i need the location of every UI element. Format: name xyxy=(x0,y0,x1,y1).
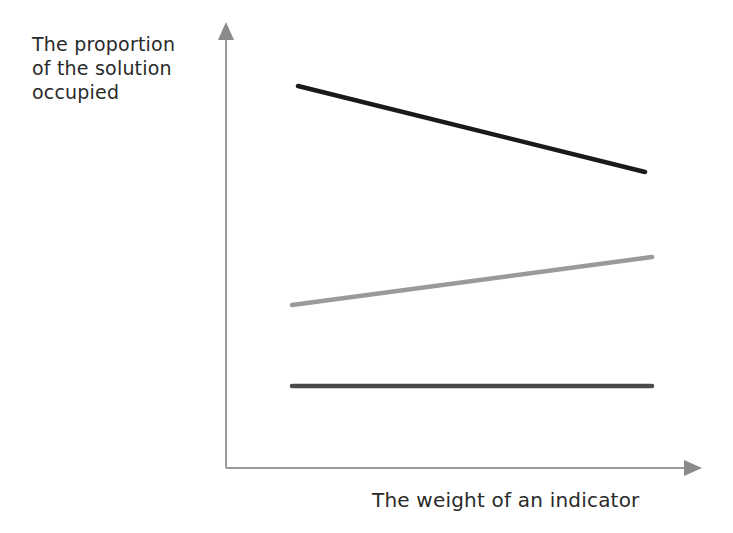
y-axis-label-line-2: of the solution xyxy=(32,56,222,80)
y-axis-label-line-3: occupied xyxy=(32,80,222,104)
line-decreasing xyxy=(298,86,645,172)
chart: The proportion of the solution occupied … xyxy=(0,0,733,533)
y-axis-label-line-1: The proportion xyxy=(32,32,222,56)
y-axis-label: The proportion of the solution occupied xyxy=(32,32,222,104)
line-increasing xyxy=(292,257,652,305)
x-axis-label: The weight of an indicator xyxy=(372,488,640,512)
